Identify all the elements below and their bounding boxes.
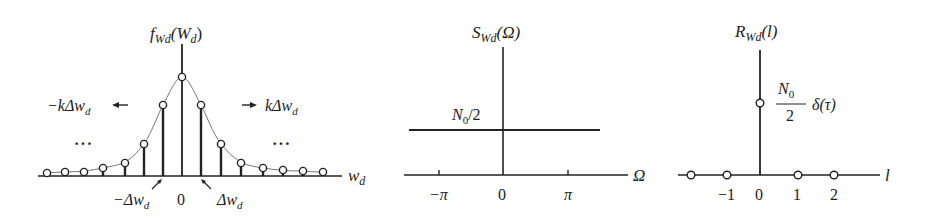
psd-tick-label-neg-pi: −π: [429, 186, 449, 203]
figure-canvas: fWd(Wd): [0, 0, 926, 221]
psd-panel: SWd(Ω) N0/2 Ω −π 0 π: [404, 23, 645, 203]
autocorr-tick-label-0: 0: [755, 186, 763, 203]
pointer-pos-delta-icon: [201, 179, 211, 189]
pdf-tick-pos-delta: Δwd: [216, 191, 243, 211]
pointer-neg-delta-icon: [152, 179, 162, 189]
svg-text:N0: N0: [777, 80, 795, 100]
svg-text:2: 2: [786, 107, 794, 124]
pdf-ellipsis-left: ···: [74, 135, 93, 152]
autocorr-title: RWd(l): [734, 22, 778, 44]
autocorr-tick-label-2: 2: [830, 186, 838, 203]
pdf-ellipsis-right: ···: [272, 135, 291, 152]
psd-tick-label-zero: 0: [498, 186, 506, 203]
pdf-right-label: kΔwd: [265, 97, 298, 117]
autocorr-impulse-label: N0 2 δ(τ): [776, 80, 836, 124]
arrow-right-icon: [242, 102, 257, 108]
svg-text:δ(τ): δ(τ): [812, 96, 836, 114]
pdf-panel: fWd(Wd): [38, 24, 366, 211]
pdf-left-label: −kΔwd: [47, 97, 91, 117]
pdf-sample-markers: [43, 73, 326, 176]
psd-tick-label-pi: π: [564, 186, 573, 203]
autocorr-panel: RWd(l) N0 2 δ(τ) l −1 0 1 2: [678, 22, 890, 203]
arrow-left-icon: [112, 102, 128, 108]
psd-title: SWd(Ω): [472, 23, 520, 45]
pdf-x-axis-label: wd: [348, 166, 366, 188]
autocorr-tick-label-neg1: −1: [718, 186, 735, 203]
autocorr-tick-label-1: 1: [793, 186, 801, 203]
pdf-envelope-curve: [47, 77, 323, 173]
pdf-tick-zero: 0: [177, 191, 185, 208]
psd-level-label: N0/2: [451, 106, 481, 126]
autocorr-x-axis-label: l: [885, 166, 890, 185]
pdf-title: fWd(Wd): [150, 24, 202, 46]
psd-x-axis-label: Ω: [633, 166, 645, 185]
pdf-tick-neg-delta: −Δwd: [113, 191, 150, 211]
